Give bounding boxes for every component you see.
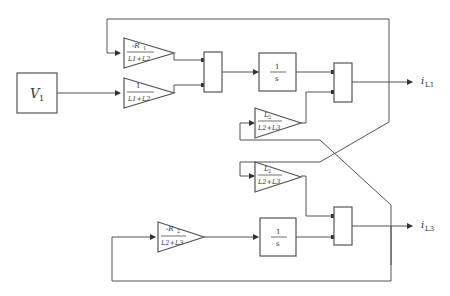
svg-text:i: i — [421, 75, 424, 86]
integrator-denominator: s — [275, 75, 279, 83]
svg-text:L1: L1 — [425, 81, 434, 89]
svg-text:2: 2 — [177, 228, 180, 234]
gain-denominator: L1+L2 — [127, 55, 150, 63]
svg-text:i: i — [421, 219, 424, 230]
gain-mid-1: L 2 L2+L3 — [255, 108, 301, 138]
block-diagram: V 1 -R 1 L1+L2 1 L1+L2 1 s L 2 L2+L3 L — [0, 0, 450, 296]
gain-numerator: -R — [132, 42, 140, 50]
wire-gain1-to-sum — [174, 53, 204, 60]
wire-gain2-to-sum — [174, 85, 204, 93]
gain-denominator: L2+L3 — [257, 124, 280, 132]
svg-text:2: 2 — [268, 114, 271, 120]
gain-bottom: -R 2 L2+L3 — [158, 222, 204, 252]
gain-denominator: L2+L3 — [160, 239, 183, 247]
gain-denominator: L2+L3 — [257, 178, 280, 186]
output-label-il1: i L1 — [421, 75, 434, 89]
source-block-v1: V 1 — [17, 73, 57, 113]
gain-numerator: -R — [166, 225, 174, 233]
sum-bottom-right — [334, 207, 352, 245]
svg-text:L3: L3 — [425, 225, 434, 233]
gain-denominator: L1+L2 — [127, 95, 150, 103]
svg-text:1: 1 — [143, 45, 146, 51]
integrator-bottom: 1 s — [260, 218, 296, 256]
integrator-top: 1 s — [259, 53, 296, 91]
wire-gainmid2-to-sum3 — [301, 176, 334, 216]
sum-top-left — [204, 52, 222, 92]
source-subscript: 1 — [39, 94, 44, 103]
integrator-numerator: 1 — [275, 63, 279, 71]
integrator-numerator: 1 — [276, 228, 280, 236]
gain-top-1: -R 1 L1+L2 — [124, 38, 174, 68]
integrator-denominator: s — [276, 240, 280, 248]
sum-top-right — [334, 63, 352, 102]
wire-gainmid1-to-sum2 — [301, 92, 334, 123]
gain-top-2: 1 L1+L2 — [124, 78, 174, 108]
svg-text:2: 2 — [268, 168, 271, 174]
output-label-il3: i L3 — [421, 219, 434, 233]
gain-numerator: 1 — [136, 82, 140, 90]
gain-mid-2: L 2 L2+L3 — [255, 162, 301, 192]
